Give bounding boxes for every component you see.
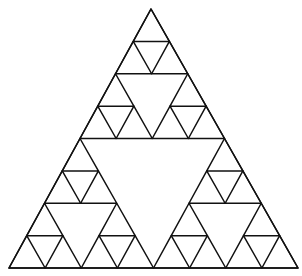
triangle — [154, 236, 190, 268]
triangle — [116, 41, 152, 73]
triangle — [45, 171, 81, 203]
triangle — [189, 171, 225, 203]
triangle — [45, 236, 81, 268]
triangle — [226, 236, 262, 268]
triangle — [225, 171, 261, 203]
triangle — [98, 74, 134, 106]
triangle — [27, 203, 63, 235]
triangle — [9, 236, 45, 268]
triangle — [133, 9, 169, 41]
triangle — [62, 139, 98, 171]
triangle — [207, 139, 243, 171]
triangle — [188, 106, 224, 138]
triangle — [116, 106, 152, 138]
triangle — [190, 236, 226, 268]
triangle — [81, 171, 117, 203]
triangle — [99, 203, 135, 235]
triangle — [170, 74, 206, 106]
triangle — [244, 203, 280, 235]
triangle — [80, 106, 116, 138]
sierpinski-triangle-diagram — [0, 0, 302, 276]
triangle — [117, 236, 153, 268]
triangle — [152, 41, 188, 73]
triangle — [262, 236, 298, 268]
triangle — [81, 236, 117, 268]
triangle — [171, 203, 207, 235]
triangle — [152, 106, 188, 138]
